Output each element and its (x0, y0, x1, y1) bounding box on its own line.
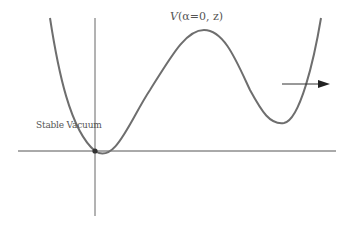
potential-diagram (0, 0, 346, 231)
arrow-head-icon (318, 80, 330, 88)
potential-curve (50, 18, 321, 154)
stable-vacuum-dot (92, 148, 97, 153)
potential-title: V(α=0, z) (170, 10, 223, 23)
stable-vacuum-label: Stable Vacuum (36, 120, 102, 130)
